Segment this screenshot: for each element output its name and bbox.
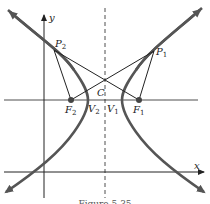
label-P1: P1 <box>156 47 167 59</box>
diagram-canvas <box>0 0 210 204</box>
label-F2: F2 <box>65 105 76 117</box>
focus-F1-dot <box>136 97 142 103</box>
x-axis-label: x <box>194 161 200 171</box>
y-axis-label: y <box>49 13 55 23</box>
hyperbola-left-branch <box>6 10 88 192</box>
figure-caption: Figure 5.35 <box>0 199 210 204</box>
label-C: C <box>97 88 105 98</box>
focus-F2-dot <box>68 97 74 103</box>
label-P2: P2 <box>55 39 66 51</box>
label-F1: F1 <box>133 105 144 117</box>
label-V1: V1 <box>107 104 119 116</box>
hyperbola-diagram: y x P2 P1 C F2 V2 V1 F1 Figure 5.35 <box>0 0 210 204</box>
label-V2: V2 <box>88 104 100 116</box>
